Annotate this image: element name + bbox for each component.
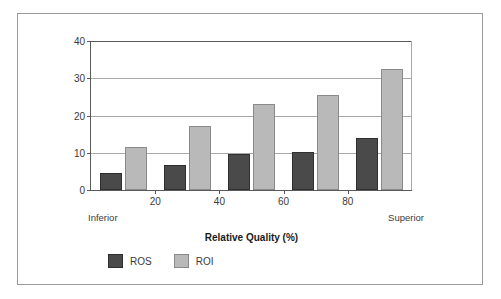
legend-swatch-roi [174, 254, 189, 268]
x-tick-label-20: 20 [150, 196, 161, 207]
y-tick-label-30: 30 [74, 73, 85, 84]
bar-ros-30 [164, 165, 186, 190]
bars-layer [91, 41, 412, 190]
x-tick-mark-40 [219, 190, 220, 194]
y-tick-label-20: 20 [74, 110, 85, 121]
legend-label-roi: ROI [196, 256, 214, 267]
plot-area: 010203040 20406080 Inferior Superior Rel… [90, 41, 412, 191]
legend-swatch-ros [108, 254, 123, 268]
chart-frame: 010203040 20406080 Inferior Superior Rel… [17, 13, 483, 285]
x-axis-end-label-left: Inferior [88, 212, 118, 223]
bar-group [228, 41, 275, 190]
bar-roi-90 [381, 69, 403, 190]
bar-ros-70 [292, 152, 314, 190]
x-tick-mark-80 [348, 190, 349, 194]
x-tick-mark-60 [284, 190, 285, 194]
legend-label-ros: ROS [130, 256, 152, 267]
bar-group [292, 41, 339, 190]
bar-roi-30 [189, 126, 211, 190]
bar-roi-50 [253, 104, 275, 190]
bar-group [164, 41, 211, 190]
x-axis-end-label-right: Superior [388, 212, 424, 223]
bar-group [356, 41, 403, 190]
x-tick-label-40: 40 [214, 196, 225, 207]
y-tick-label-0: 0 [79, 185, 85, 196]
x-tick-label-60: 60 [278, 196, 289, 207]
x-tick-label-80: 80 [342, 196, 353, 207]
chart-legend: ROS ROI [108, 254, 213, 268]
bar-ros-50 [228, 154, 250, 190]
bar-roi-70 [317, 95, 339, 190]
legend-item-ros: ROS [108, 254, 152, 268]
legend-item-roi: ROI [174, 254, 214, 268]
bar-ros-90 [356, 138, 378, 190]
bar-group [100, 41, 147, 190]
y-tick-label-10: 10 [74, 147, 85, 158]
bar-roi-10 [125, 147, 147, 190]
y-tick-label-40: 40 [74, 36, 85, 47]
x-tick-mark-20 [155, 190, 156, 194]
bar-ros-10 [100, 173, 122, 191]
y-tick-mark-0 [87, 190, 91, 191]
x-axis-title: Relative Quality (%) [91, 232, 412, 243]
